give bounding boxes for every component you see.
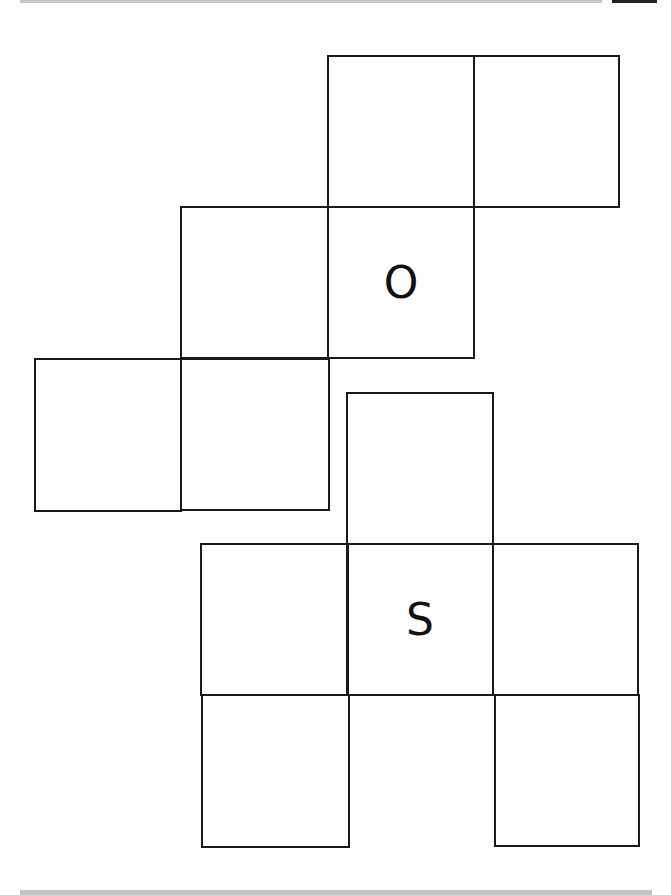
net-face: S [346,543,494,696]
net-face [180,206,329,359]
net-face [180,358,330,511]
top-marker [612,0,657,3]
face-label: S [406,598,434,642]
bottom-divider [20,890,652,895]
net-face [494,694,640,847]
net-face [200,543,349,696]
net-face [346,392,494,545]
top-divider [20,0,602,3]
net-face: O [327,206,475,359]
net-face [327,55,475,208]
net-face [473,55,620,208]
face-label: O [384,261,419,305]
net-face [492,543,639,696]
net-face [201,694,350,848]
net-face [34,358,182,512]
